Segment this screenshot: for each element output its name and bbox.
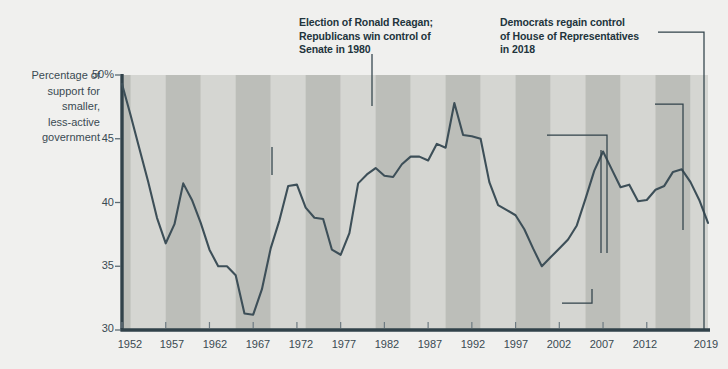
chart-plot [0, 0, 728, 369]
chart-canvas: Percentage of support for smaller, less-… [0, 0, 728, 369]
